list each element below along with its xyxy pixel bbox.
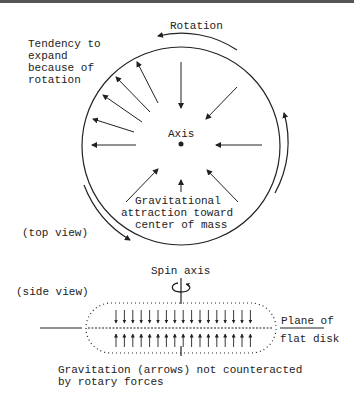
top-view: Rotation Tendency to expand because of r… (22, 20, 288, 245)
spin-axis-label: Spin axis (151, 265, 210, 277)
top-view-label: (top view) (22, 227, 88, 239)
gravity-label-2: attraction toward (121, 207, 233, 219)
rotation-label: Rotation (170, 20, 223, 32)
caption-line-2: by rotary forces (58, 376, 164, 388)
side-view-label: (side view) (16, 286, 89, 298)
axis-label: Axis (168, 128, 194, 140)
up-arrows (116, 334, 250, 347)
diagram: Rotation Tendency to expand because of r… (0, 0, 354, 400)
plane-label-1: Plane of (281, 315, 334, 327)
expand-label-1: Tendency to (28, 38, 101, 50)
expand-label-2: expand (28, 50, 68, 62)
axis-dot (179, 142, 184, 147)
caption-line-1: Gravitation (arrows) not counteracted (58, 364, 302, 376)
gravity-label-3: center of mass (135, 219, 227, 231)
side-view: Spin axis (side view) (16, 265, 340, 388)
gravity-label-1: Gravitational (135, 195, 221, 207)
rotation-arrow-right (275, 113, 288, 193)
expand-label-3: because of (28, 62, 94, 74)
expansion-arrows (92, 62, 158, 145)
down-arrows (116, 310, 250, 323)
plane-label-2: flat disk (280, 333, 340, 345)
expand-label-4: rotation (28, 74, 81, 86)
